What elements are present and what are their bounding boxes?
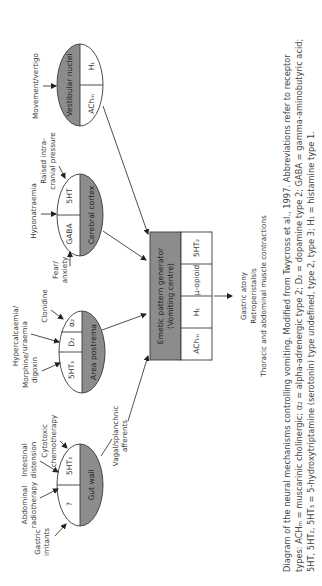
receptor-epg-mu-opioid: μ-opioid [192, 265, 201, 296]
rotated-figure: ? 5HT₃ Gut wall 5HT₃ D₂ α₂ Area postrema [0, 0, 322, 586]
organ-label-area-postrema: Area postrema [89, 324, 98, 380]
svg-text:cranial pressure: cranial pressure [48, 132, 57, 190]
receptor-epg-achm: AChₘ [192, 334, 201, 354]
svg-text:Vagal/splanchnic: Vagal/splanchnic [111, 406, 120, 466]
receptor-cc-gaba: GABA [65, 223, 74, 245]
receptor-epg-h1: H₁ [192, 308, 201, 317]
svg-text:Abdominal: Abdominal [20, 486, 29, 524]
receptor-ap-5ht3: 5HT₃ [67, 361, 76, 379]
emetic-outputs: Gastric atony Retroperistalsis Thoracic … [239, 215, 268, 378]
stimulus-vagal-splanchnic-afferents: Vagal/splanchnic afferents [111, 406, 129, 466]
svg-text:Morphine/: Morphine/ [21, 351, 30, 388]
svg-text:distension: distension [29, 442, 38, 479]
stimulus-abdominal-radiotherapy: Abdominal radiotherapy [20, 481, 38, 528]
svg-text:Hypercalcaemia/: Hypercalcaemia/ [11, 305, 20, 366]
receptor-epg-5ht2: 5HT₂ [192, 239, 201, 257]
organ-label-vestibular-nuclei: Vestibular nuclei [65, 54, 74, 117]
organ-label-gut-wall: Gut wall [87, 469, 96, 500]
output-retroperistalsis: Retroperistalsis [249, 268, 258, 324]
stimulus-gastric-irritants: Gastric irritants [33, 528, 51, 556]
organ-label-cerebral-cortex: Cerebral cortex [87, 185, 96, 244]
caption-line-3: 5HT, 5HT₂, 5HT₃ = 5-hydroxytriptamine (s… [305, 7, 317, 572]
svg-text:Cytotoxic: Cytotoxic [40, 424, 49, 458]
output-gastric-atony: Gastric atony [239, 271, 248, 320]
node-vestibular-nuclei: Vestibular nuclei AChₘ H₁ [57, 44, 103, 126]
figure-caption: Diagram of the neural mechanisms control… [281, 7, 317, 572]
svg-text:Raised intra-: Raised intra- [39, 138, 48, 184]
svg-text:uraemia: uraemia [20, 321, 29, 351]
receptor-ap-d2: D₂ [67, 338, 76, 347]
receptor-ap-alpha2: α₂ [67, 319, 76, 327]
node-gut-wall: ? 5HT₃ Gut wall [57, 444, 104, 526]
output-muscle-contractions: Thoracic and abdominal muscle contractio… [259, 215, 268, 378]
svg-text:Fear/: Fear/ [51, 260, 60, 279]
stimulus-morphine-digoxin: Morphine/ digoxin [21, 351, 39, 388]
stimulus-clonidine: Clonidine [40, 289, 49, 323]
stimulus-movement-vertigo: Movement/vertigo [31, 53, 40, 119]
svg-text:irritants: irritants [42, 528, 51, 556]
caption-line-2: types: ACHₘ = muscarinic cholinergic; α₂… [293, 7, 305, 572]
receptor-vn-h1: H₁ [87, 62, 96, 71]
stimulus-fear-anxiety: Fear/ anxiety [51, 256, 69, 283]
svg-text:Intestinal: Intestinal [20, 443, 29, 476]
caption-line-1: Diagram of the neural mechanisms control… [281, 7, 293, 572]
svg-text:radiotherapy: radiotherapy [29, 481, 38, 528]
svg-text:anxiety: anxiety [60, 256, 69, 283]
diagram-canvas: ? 5HT₃ Gut wall 5HT₃ D₂ α₂ Area postrema [0, 0, 322, 586]
svg-text:afferents: afferents [120, 420, 129, 452]
node-emetic-pattern-generator: Emetic pattern generator (Vomiting centr… [150, 232, 212, 360]
node-cerebral-cortex: GABA 5HT Cerebral cortex [57, 174, 104, 256]
svg-text:Gastric: Gastric [33, 529, 42, 554]
node-area-postrema: 5HT₃ D₂ α₂ Area postrema [59, 311, 106, 393]
receptor-gut-5ht3: 5HT₃ [65, 457, 74, 475]
emetic-title: Emetic pattern generator [156, 247, 165, 344]
svg-text:digoxin: digoxin [30, 357, 39, 383]
svg-text:chemotherapy: chemotherapy [49, 414, 58, 467]
stimulus-cytotoxic-chemotherapy: Cytotoxic chemotherapy [40, 414, 58, 467]
receptor-vn-achm: AChₘ [87, 94, 96, 114]
receptor-cc-5ht: 5HT [65, 188, 74, 203]
stimulus-hyponatraemia: Hyponatraemia [29, 183, 38, 239]
stimulus-intestinal-distension: Intestinal distension [20, 442, 38, 479]
stimulus-raised-icp: Raised intra- cranial pressure [39, 132, 57, 190]
emetic-subtitle: (Vomiting centre) [166, 263, 175, 329]
receptor-gut-unknown: ? [65, 502, 74, 506]
